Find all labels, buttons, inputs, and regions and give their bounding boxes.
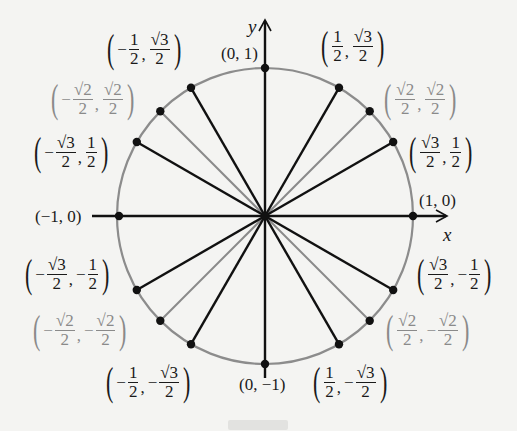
label-30deg: ( √32 , 12 ) [406,132,475,172]
label-210deg: ( − √32 , − 12 ) [22,254,112,294]
label-240deg: ( − 12 , − √32 ) [103,362,193,402]
cropped-caption [228,420,288,430]
label-135deg: ( − √22 , √22 ) [48,79,137,119]
label-150deg: ( − √32 , 12 ) [31,132,111,172]
label-300deg: ( 12 , − √32 ) [310,362,390,402]
label-45deg: ( √22 , √22 ) [381,79,460,119]
label-1-0: (1, 0) [419,192,456,209]
label-225deg: ( − √22 , − √22 ) [30,310,130,350]
unit-circle-figure: y x (0, 1) (1, 0) (−1, 0) (0, −1) ( 12 ,… [0,0,517,431]
label-60deg: ( 12 , √32 ) [318,26,387,66]
label-0-1: (0, 1) [221,45,258,62]
x-axis-label: x [443,224,451,246]
label-0-neg1: (0, −1) [239,376,285,393]
label-315deg: ( √22 , − √22 ) [383,310,472,350]
label-330deg: ( √32 , − 12 ) [414,254,494,294]
y-axis-label: y [248,16,256,38]
label-120deg: ( − 12 , √32 ) [104,29,184,69]
label-neg1-0: (−1, 0) [35,208,81,225]
